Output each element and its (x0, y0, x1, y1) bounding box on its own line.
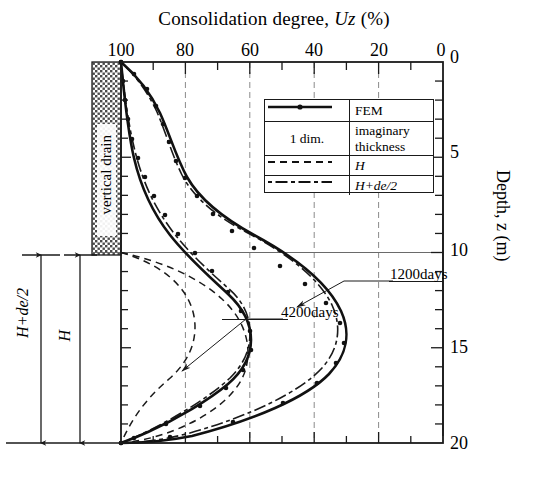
dimension-arrow-h-plus-de2 (6, 255, 121, 443)
legend-row-imaginary: 1 dim. imaginary thickness (265, 122, 433, 156)
legend-text-hde2: H+de/2 (350, 176, 433, 195)
legend-symbol-1dim: 1 dim. (265, 122, 350, 155)
legend-text-h: H (350, 156, 433, 175)
legend: FEM 1 dim. imaginary thickness H (264, 99, 434, 193)
plot-area (0, 0, 548, 487)
legend-label-h: H (355, 158, 433, 173)
annotation-1200days: 1200days (390, 266, 448, 283)
legend-row-hde2: H+de/2 (265, 176, 433, 195)
legend-label-fem: FEM (355, 103, 433, 118)
figure-root: Consolidation degree, Uz (%) 100 80 60 4… (0, 0, 548, 487)
legend-symbol-h (265, 156, 350, 175)
legend-label-1dim: 1 dim. (290, 131, 325, 146)
legend-label-hde2: H+de/2 (355, 178, 433, 193)
legend-label-imaginary-1: imaginary (355, 123, 433, 138)
dimension-label-h-plus-de2: H+de/2 (14, 288, 32, 338)
annotation-leaders (182, 281, 443, 371)
legend-symbol-hde2 (265, 176, 350, 195)
legend-row-h: H (265, 156, 433, 176)
annotation-4200days: 4200days (281, 304, 339, 321)
legend-text-imaginary: imaginary thickness (350, 122, 433, 155)
legend-symbol-fem (265, 100, 350, 121)
x-axis-ticks-bottom (153, 432, 411, 443)
legend-row-fem: FEM (265, 100, 433, 122)
dimension-label-h: H (56, 330, 74, 342)
dimension-arrow-h (64, 255, 97, 443)
vertical-drain-label: vertical drain (98, 135, 115, 215)
legend-text-fem: FEM (350, 100, 433, 121)
legend-label-imaginary-2: thickness (355, 139, 433, 154)
x-axis-ticks (153, 62, 411, 74)
